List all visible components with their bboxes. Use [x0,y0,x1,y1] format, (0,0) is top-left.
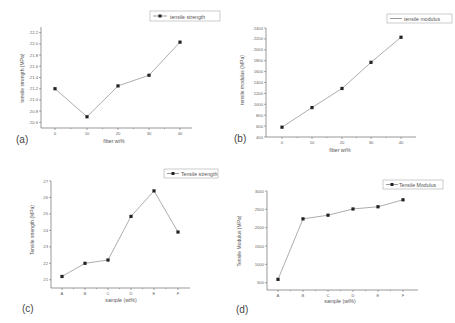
svg-text:B: B [302,293,305,298]
svg-text:D: D [129,291,132,296]
y-ticks-d: 50010001500200025003000 [255,189,267,286]
y-axis-label-c: Tensile strength (MPa) [29,205,35,255]
data-point-marker [399,36,402,39]
x-ticks-c: ABCDEF [61,288,180,296]
series-line-b [282,37,401,127]
series-line-c [62,191,178,277]
panel-label-d: (d) [236,304,248,315]
y-axis-label-d: Tensile Modulus (MPa) [236,215,242,266]
svg-text:22.2: 22.2 [30,30,39,35]
svg-text:C: C [106,291,109,296]
series-line-a [55,42,180,117]
svg-text:30: 30 [369,140,374,145]
y-axis-label-b: tensile modulus (MPa) [239,55,245,105]
svg-text:1200: 1200 [254,91,264,96]
svg-text:1000: 1000 [255,262,265,267]
data-point-marker [326,214,329,217]
x-ticks-a: 010203040 [54,128,183,136]
panel-label-c: (c) [22,303,34,314]
svg-text:400: 400 [256,135,264,140]
x-axis-label-b: fiber wt% [329,147,351,153]
data-point-marker [310,106,313,109]
legend-label-b: tensile modulus [404,16,440,22]
svg-text:1600: 1600 [254,69,264,74]
svg-text:E: E [153,291,156,296]
svg-text:0: 0 [54,131,57,136]
y-axis-label-a: tensile strength (MPa) [19,53,25,102]
svg-text:24: 24 [43,228,48,233]
x-axis-label-d: sample (wt%) [324,298,356,304]
x-axis-label-a: fiber wt% [103,138,125,144]
svg-text:2400: 2400 [254,26,264,31]
data-point-marker [176,230,179,233]
svg-text:27: 27 [43,179,48,184]
data-point-marker [116,84,119,87]
svg-text:40: 40 [399,140,404,145]
x-ticks-d: ABCDEF [277,290,405,298]
series-markers-c [60,189,179,278]
svg-text:20.6: 20.6 [30,120,39,125]
data-point-marker [83,262,86,265]
svg-text:25: 25 [43,211,48,216]
y-ticks-a: 20.620.821.021.221.421.621.822.022.2 [30,30,41,125]
svg-text:40: 40 [178,131,183,136]
x-ticks-b: 010203040 [281,137,404,145]
figure-canvas: tensile strength 20.620.821.021.221.421.… [0,0,455,323]
data-point-marker [106,258,109,261]
data-point-marker [53,87,56,90]
legend-label-d: Tensile Modulus [399,182,437,188]
data-point-marker [276,278,279,281]
svg-text:26: 26 [43,195,48,200]
svg-text:20.8: 20.8 [30,109,39,114]
svg-text:10: 10 [310,140,315,145]
svg-text:2000: 2000 [255,225,265,230]
panel-d: Tensile Modulus 50010001500200025003000 … [236,180,443,315]
svg-text:1000: 1000 [254,102,264,107]
data-point-marker [401,198,404,201]
svg-text:B: B [84,291,87,296]
svg-text:21.8: 21.8 [30,53,39,58]
svg-text:1400: 1400 [254,80,264,85]
svg-text:A: A [277,293,280,298]
data-point-marker [351,207,354,210]
series-line-d [278,200,403,280]
svg-text:2200: 2200 [254,36,264,41]
svg-text:F: F [402,293,405,298]
data-point-marker [129,215,132,218]
series-markers-b [280,36,402,129]
panel-b: tensile modulus 400600800100012001400160… [234,14,452,153]
svg-text:30: 30 [147,131,152,136]
svg-text:21.2: 21.2 [30,86,39,91]
y-ticks-b: 4006008001000120014001600180020002200240… [254,26,266,140]
svg-text:21.0: 21.0 [30,97,39,102]
svg-text:0: 0 [281,140,284,145]
svg-text:2500: 2500 [255,207,265,212]
data-point-marker [369,61,372,64]
data-point-marker [280,126,283,129]
x-axis-label-c: sample (wt%) [105,297,137,303]
data-point-marker [340,87,343,90]
data-point-marker [178,41,181,44]
svg-text:E: E [377,293,380,298]
svg-text:1800: 1800 [254,58,264,63]
data-point-marker [152,189,155,192]
svg-text:21.6: 21.6 [30,64,39,69]
data-point-marker [60,275,63,278]
svg-text:21.4: 21.4 [30,75,39,80]
panel-a: tensile strength 20.620.821.021.221.421.… [16,11,220,145]
data-point-marker [376,205,379,208]
panel-label-a: (a) [16,134,28,145]
series-markers-d [276,198,404,281]
data-point-marker [301,217,304,220]
panel-c: Tensile strength 21222324252627 ABCDEF s… [22,169,218,314]
svg-text:22: 22 [43,261,48,266]
svg-text:A: A [61,291,64,296]
legend-label-c: Tensile strength [181,171,217,177]
y-ticks-c: 21222324252627 [43,179,51,283]
svg-text:20: 20 [116,131,121,136]
svg-text:20: 20 [340,140,345,145]
svg-text:800: 800 [256,113,264,118]
svg-text:1500: 1500 [255,244,265,249]
svg-text:3000: 3000 [255,189,265,194]
svg-text:23: 23 [43,244,48,249]
